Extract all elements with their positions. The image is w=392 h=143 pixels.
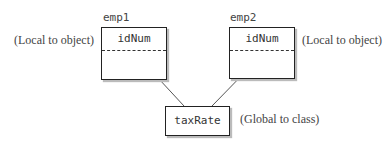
object-name-emp2: emp2 xyxy=(230,11,257,24)
field-idnum-emp2: idNum xyxy=(230,28,294,51)
field-taxrate: taxRate xyxy=(174,114,220,127)
field-idnum-emp1: idNum xyxy=(102,28,166,51)
object-box-emp1: idNum xyxy=(101,27,167,80)
annotation-local-right: (Local to object) xyxy=(302,33,382,48)
object-box-emp2: idNum xyxy=(229,27,295,79)
object-name-emp1: emp1 xyxy=(103,11,130,24)
annotation-local-left: (Local to object) xyxy=(14,33,94,48)
annotation-global: (Global to class) xyxy=(240,112,319,127)
static-field-box: taxRate xyxy=(165,106,230,136)
